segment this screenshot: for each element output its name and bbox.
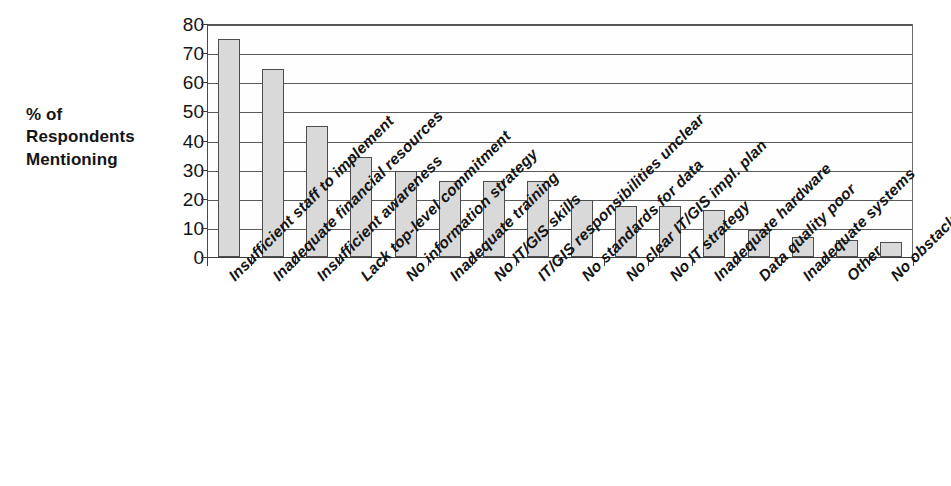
x-axis-label: No IT/GIS skills xyxy=(490,272,503,285)
x-axis-label: No IT strategy xyxy=(666,272,679,285)
x-axis-label: Inadequate hardware xyxy=(710,272,723,285)
x-tick-mark xyxy=(913,258,914,266)
x-tick-mark xyxy=(825,258,826,266)
x-axis-label: Inadequate training xyxy=(446,272,459,285)
x-axis-label: No standards for data xyxy=(578,272,591,285)
x-axis-label: IT/GIS responsibilities unclear xyxy=(534,272,547,285)
y-tick-label-60: 60 xyxy=(168,73,204,92)
bar xyxy=(836,240,858,257)
x-tick-mark xyxy=(648,258,649,266)
y-tick-mark-50 xyxy=(201,111,208,112)
y-tick-label-80: 80 xyxy=(168,15,204,34)
x-tick-mark xyxy=(781,258,782,266)
x-tick-mark xyxy=(207,258,208,266)
y-tick-label-40: 40 xyxy=(168,131,204,150)
bar xyxy=(395,171,417,257)
bar xyxy=(792,237,814,257)
bar xyxy=(571,200,593,257)
bar xyxy=(262,69,284,257)
bar xyxy=(483,181,505,257)
x-axis-label: No information strategy xyxy=(402,272,415,285)
y-tick-mark-40 xyxy=(201,141,208,142)
y-tick-label-20: 20 xyxy=(168,189,204,208)
bar xyxy=(527,181,549,257)
bar xyxy=(659,206,681,257)
y-tick-mark-60 xyxy=(201,82,208,83)
gridline-60 xyxy=(208,83,912,84)
x-tick-mark xyxy=(737,258,738,266)
y-tick-mark-20 xyxy=(201,199,208,200)
y-tick-mark-0 xyxy=(201,257,208,258)
y-tick-mark-10 xyxy=(201,228,208,229)
x-axis-label: Insufficient awareness xyxy=(313,272,326,285)
gridline-70 xyxy=(208,54,912,55)
y-tick-mark-80 xyxy=(201,24,208,25)
x-axis-label: No obstacles xyxy=(887,272,900,285)
bar xyxy=(703,210,725,257)
y-tick-label-50: 50 xyxy=(168,102,204,121)
x-tick-mark xyxy=(251,258,252,266)
bar xyxy=(748,230,770,257)
x-tick-mark xyxy=(384,258,385,266)
y-tick-label-30: 30 xyxy=(168,160,204,179)
x-tick-mark xyxy=(428,258,429,266)
bar xyxy=(880,242,902,257)
y-axis: 01020304050607080 xyxy=(160,0,204,486)
gridline-50 xyxy=(208,112,912,113)
y-tick-label-10: 10 xyxy=(168,218,204,237)
x-axis-line xyxy=(207,257,915,258)
x-axis-label: Insufficient staff to implement xyxy=(225,272,238,285)
x-tick-mark xyxy=(560,258,561,266)
x-tick-mark xyxy=(604,258,605,266)
bar xyxy=(439,181,461,257)
x-tick-mark xyxy=(295,258,296,266)
x-tick-mark xyxy=(869,258,870,266)
gridline-80 xyxy=(208,25,912,26)
bar-chart: % of Respondents Mentioning 010203040506… xyxy=(0,0,951,486)
y-tick-label-70: 70 xyxy=(168,44,204,63)
x-axis-label: Other xyxy=(843,272,856,285)
bar xyxy=(218,39,240,257)
y-tick-mark-30 xyxy=(201,170,208,171)
x-axis-label: Data quality poor xyxy=(755,272,768,285)
y-tick-label-0: 0 xyxy=(168,248,204,267)
x-tick-mark xyxy=(516,258,517,266)
y-tick-mark-70 xyxy=(201,53,208,54)
x-tick-mark xyxy=(692,258,693,266)
bar xyxy=(350,157,372,257)
x-tick-mark xyxy=(339,258,340,266)
x-axis-label: Inadequate systems xyxy=(799,272,812,285)
x-axis-label: Lack top-level commitment xyxy=(357,272,370,285)
bar xyxy=(615,206,637,257)
x-axis-label: Inadequate financial resources xyxy=(269,272,282,285)
x-tick-mark xyxy=(472,258,473,266)
bar xyxy=(306,126,328,257)
x-axis-label: No clear IT/GIS impl. plan xyxy=(622,272,635,285)
